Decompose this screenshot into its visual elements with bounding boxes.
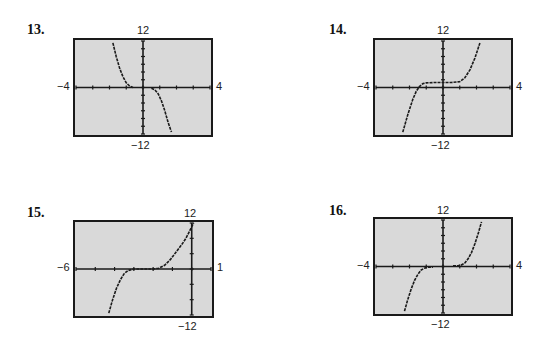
graph-canvas xyxy=(73,38,213,137)
x-max-label: 4 xyxy=(516,81,522,92)
x-min-label: −6 xyxy=(57,262,70,273)
y-max-label: 12 xyxy=(437,205,449,216)
y-max-label: 12 xyxy=(137,25,149,36)
exercise-number: 13. xyxy=(27,22,45,38)
graph-plot xyxy=(373,38,513,137)
y-min-label: −12 xyxy=(431,319,450,330)
y-min-label: −12 xyxy=(178,321,197,332)
x-min-label: −4 xyxy=(357,260,370,271)
y-max-label: 12 xyxy=(184,208,196,219)
y-min-label: −12 xyxy=(131,140,150,151)
graph-canvas xyxy=(73,220,214,318)
graph-plot xyxy=(73,220,214,318)
x-min-label: −4 xyxy=(357,81,370,92)
graph-canvas xyxy=(373,217,513,316)
exercise-number: 14. xyxy=(329,22,347,38)
graph-plot xyxy=(373,217,513,316)
graph-plot xyxy=(73,38,213,137)
x-min-label: −4 xyxy=(57,81,70,92)
x-max-label: 4 xyxy=(216,81,222,92)
exercise-number: 16. xyxy=(329,203,347,219)
graph-canvas xyxy=(373,38,513,137)
y-min-label: −12 xyxy=(431,140,450,151)
y-max-label: 12 xyxy=(437,25,449,36)
x-max-label: 1 xyxy=(217,262,223,273)
x-max-label: 4 xyxy=(516,260,522,271)
exercise-number: 15. xyxy=(27,205,45,221)
